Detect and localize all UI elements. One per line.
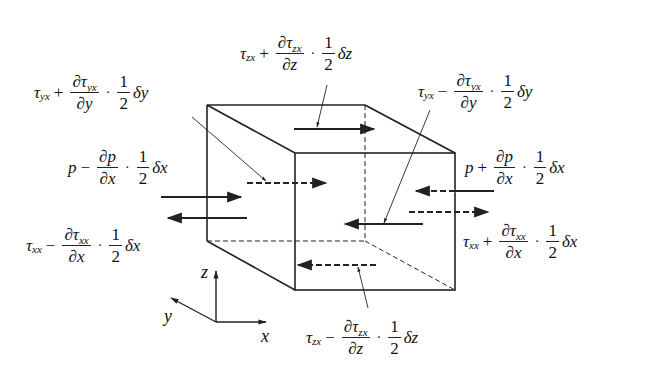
fraction: ∂τxx∂x bbox=[62, 226, 90, 265]
axis-label-x: x bbox=[261, 326, 269, 347]
label-tyx-minus: τyx − ∂τyx∂y · 12 δy bbox=[418, 72, 532, 111]
half-fraction: 12 bbox=[322, 34, 335, 73]
fraction: ∂τyx∂y bbox=[454, 72, 482, 111]
label-p-plus: p + ∂p∂x · 12 δx bbox=[465, 148, 565, 187]
half-fraction: 12 bbox=[534, 148, 547, 187]
label-txx-plus: τxx + ∂τxx∂x · 12 δx bbox=[463, 222, 577, 261]
label-tyx-plus: τyx + ∂τyx∂y · 12 δy bbox=[34, 73, 148, 112]
axis-label-z: z bbox=[201, 262, 208, 283]
force-arrows bbox=[161, 129, 494, 265]
half-fraction: 12 bbox=[546, 222, 559, 261]
fraction: ∂τxx∂x bbox=[499, 222, 527, 261]
half-fraction: 12 bbox=[501, 72, 514, 111]
axis-label-y: y bbox=[164, 306, 172, 327]
label-tzx-top: τzx + ∂τzx∂z · 12 δz bbox=[240, 34, 352, 73]
fraction: ∂τyx∂y bbox=[70, 73, 98, 112]
fraction: ∂p∂x bbox=[494, 148, 515, 187]
half-fraction: 12 bbox=[109, 226, 122, 265]
fraction: ∂p∂x bbox=[97, 148, 118, 187]
coordinate-axes bbox=[171, 271, 266, 322]
half-fraction: 12 bbox=[388, 318, 401, 357]
label-tzx-minus: τzx − ∂τzx∂z · 12 δz bbox=[306, 318, 418, 357]
half-fraction: 12 bbox=[137, 148, 150, 187]
fraction: ∂τzx∂z bbox=[276, 34, 304, 73]
half-fraction: 12 bbox=[117, 73, 130, 112]
cube bbox=[207, 105, 455, 290]
label-txx-minus: τxx − ∂τxx∂x · 12 δx bbox=[26, 226, 140, 265]
label-p-minus: p − ∂p∂x · 12 δx bbox=[68, 148, 168, 187]
fraction: ∂τzx∂z bbox=[342, 318, 370, 357]
